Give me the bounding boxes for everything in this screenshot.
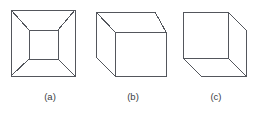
cube-c-front-face (183, 12, 228, 58)
cube-b-front-face (115, 32, 166, 76)
cube-b-connector-bottom-left (96, 57, 115, 76)
cube-a-front-face (29, 30, 58, 59)
cube-a-connector-top-right (58, 10, 75, 30)
cube-c-group (183, 12, 246, 76)
cube-b-connector-top-left (96, 12, 115, 32)
cube-a-connector-bottom-right (58, 59, 75, 76)
cube-figure: (a) (b) (c) (0, 0, 268, 116)
cube-c-connector-bottom-left (183, 58, 201, 76)
caption-b: (b) (127, 91, 139, 102)
cube-b-group (96, 12, 166, 76)
cube-a-connector-top-left (11, 10, 29, 30)
cube-b-connector-top-right (155, 12, 166, 32)
cube-a-connector-bottom-left (11, 59, 29, 76)
cube-a-group (11, 10, 75, 76)
cube-c-connector-top-right (228, 12, 246, 30)
cube-figure-canvas: (a) (b) (c) (0, 0, 268, 116)
caption-a: (a) (44, 91, 56, 102)
cube-c-connector-bottom-right (228, 58, 246, 76)
caption-c: (c) (210, 91, 221, 102)
